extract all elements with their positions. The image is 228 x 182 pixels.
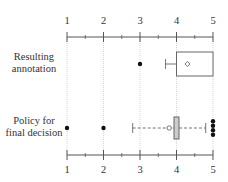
tick-label: 5 — [210, 15, 215, 26]
category-labels: ResultingannotationPolicy forfinal decis… — [6, 51, 64, 138]
outlier-point — [211, 128, 215, 132]
bottom-x-axis: 12345 — [64, 150, 215, 175]
outlier-point — [138, 62, 142, 66]
top-x-axis: 12345 — [64, 15, 215, 42]
category-label: annotation — [12, 63, 57, 74]
outlier-point — [211, 119, 215, 123]
tick-label: 3 — [137, 164, 142, 175]
outlier-point — [211, 124, 215, 128]
tick-label: 4 — [174, 15, 180, 26]
tick-label: 5 — [210, 164, 215, 175]
outlier-point — [65, 126, 69, 130]
box-resulting-annotation — [138, 52, 213, 76]
iqr-box — [177, 52, 214, 76]
outlier-point — [211, 133, 215, 137]
tick-label: 1 — [64, 164, 69, 175]
tick-label: 1 — [64, 15, 69, 26]
iqr-box — [174, 117, 179, 139]
tick-label: 3 — [137, 15, 142, 26]
tick-label: 4 — [174, 164, 180, 175]
boxplot-chart: 12345 12345 ResultingannotationPolicy fo… — [0, 0, 228, 182]
tick-label: 2 — [101, 164, 106, 175]
category-label: final decision — [6, 127, 64, 138]
outlier-point — [101, 126, 105, 130]
category-label: Resulting — [14, 51, 55, 62]
category-label: Policy for — [13, 115, 55, 126]
tick-label: 2 — [101, 15, 106, 26]
mean-marker — [167, 126, 171, 130]
